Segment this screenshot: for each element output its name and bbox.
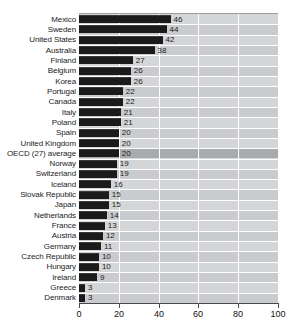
category-label: Austria [0, 231, 76, 240]
category-label: Czech Republic [0, 252, 76, 261]
bar-value-label: 10 [102, 252, 111, 261]
x-tick-label: 60 [183, 309, 213, 319]
category-label: Greece [0, 283, 76, 292]
bar [79, 160, 117, 168]
bar [79, 263, 99, 271]
bar [79, 108, 121, 116]
category-label: Norway [0, 159, 76, 168]
bar-value-label: 19 [120, 159, 129, 168]
category-label: Ireland [0, 273, 76, 282]
row-band [79, 200, 278, 210]
bar [79, 211, 107, 219]
bar-value-label: 15 [112, 190, 121, 199]
category-label: Canada [0, 97, 76, 106]
x-tick-label: 40 [144, 309, 174, 319]
row-band [79, 282, 278, 292]
bar-chart: · · · · · · MexicoSwedenUnited StatesAus… [0, 0, 292, 332]
category-label: OECD (27) average [0, 149, 76, 158]
category-label: Mexico [0, 15, 76, 24]
bar [79, 87, 123, 95]
bar-value-label: 21 [124, 108, 133, 117]
bar [79, 232, 103, 240]
category-label: Belgium [0, 66, 76, 75]
bar [79, 180, 111, 188]
bar [79, 242, 101, 250]
bar [79, 25, 167, 33]
category-label: France [0, 221, 76, 230]
bar [79, 56, 133, 64]
row-gridline [79, 282, 278, 283]
x-tick-label: 80 [223, 309, 253, 319]
category-label: Denmark [0, 293, 76, 302]
category-label: Italy [0, 108, 76, 117]
bar [79, 98, 123, 106]
bar [79, 273, 97, 281]
bar [79, 67, 131, 75]
category-label: Sweden [0, 25, 76, 34]
category-label: Spain [0, 128, 76, 137]
row-gridline [79, 200, 278, 201]
bar-value-label: 11 [104, 242, 112, 251]
bar [79, 222, 105, 230]
x-tick-label: 20 [104, 309, 134, 319]
bar [79, 149, 119, 157]
category-label: Australia [0, 46, 76, 55]
bar-value-label: 42 [166, 35, 175, 44]
bar-value-label: 20 [122, 128, 131, 137]
category-label: Netherlands [0, 211, 76, 220]
x-tick [238, 304, 239, 308]
row-band [79, 189, 278, 199]
bar [79, 129, 119, 137]
bar-value-label: 19 [120, 169, 129, 178]
bar [79, 284, 85, 292]
row-gridline [79, 272, 278, 273]
bar-value-label: 9 [100, 273, 104, 282]
row-band [79, 210, 278, 220]
x-axis-line [79, 303, 279, 304]
bar [79, 36, 163, 44]
bar-value-label: 12 [106, 231, 115, 240]
x-gridline [238, 14, 239, 303]
bar-value-label: 20 [122, 149, 131, 158]
bar-value-label: 46 [174, 15, 183, 24]
category-label: Germany [0, 242, 76, 251]
bar [79, 139, 119, 147]
bar [79, 170, 117, 178]
x-gridline [159, 14, 160, 303]
x-tick-label: 100 [263, 309, 292, 319]
bar [79, 201, 109, 209]
x-tick [198, 304, 199, 308]
bar-value-label: 10 [102, 262, 111, 271]
bar-value-label: 21 [124, 118, 133, 127]
bar-value-label: 20 [122, 139, 131, 148]
category-label: Finland [0, 56, 76, 65]
category-label: Iceland [0, 180, 76, 189]
row-gridline [79, 293, 278, 294]
x-tick-label: 0 [64, 309, 94, 319]
category-label: Hungary [0, 262, 76, 271]
bar-value-label: 26 [134, 66, 143, 75]
bar-value-label: 22 [126, 87, 135, 96]
row-gridline [79, 189, 278, 190]
bar-value-label: 22 [126, 97, 135, 106]
bar [79, 294, 85, 302]
bar-value-label: 15 [112, 200, 121, 209]
bar-value-label: 3 [88, 283, 92, 292]
bar-value-label: 44 [170, 25, 179, 34]
bar [79, 15, 171, 23]
category-label: United States [0, 35, 76, 44]
clipped-title: · · · · · · [0, 0, 292, 7]
bar-value-label: 16 [114, 180, 123, 189]
bar-value-label: 27 [136, 56, 145, 65]
bar-value-label: 13 [108, 221, 117, 230]
bar [79, 253, 99, 261]
bar-value-label: 26 [134, 77, 143, 86]
x-tick [278, 304, 279, 308]
bar [79, 77, 131, 85]
row-band [79, 272, 278, 282]
category-label: Portugal [0, 87, 76, 96]
bar [79, 118, 121, 126]
bar-value-label: 14 [110, 211, 119, 220]
bar [79, 191, 109, 199]
category-label: Japan [0, 200, 76, 209]
